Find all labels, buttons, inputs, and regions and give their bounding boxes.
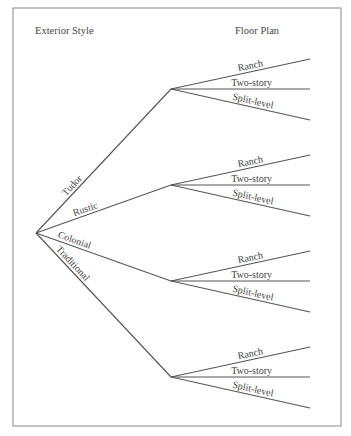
branch-line-rustic (36, 185, 171, 233)
leaf-label-two-story: Two-story (231, 365, 272, 376)
leaf-label-ranch: Ranch (237, 249, 264, 265)
header-exterior-style: Exterior Style (35, 25, 94, 36)
leaf-label-ranch: Ranch (237, 57, 264, 73)
leaf-label-two-story: Two-story (231, 77, 272, 88)
leaf-label-two-story: Two-story (231, 173, 272, 184)
header-floor-plan: Floor Plan (235, 25, 280, 36)
leaf-label-ranch: Ranch (237, 345, 264, 361)
leaf-label-ranch: Ranch (237, 153, 264, 169)
tree-diagram: Exterior Style Floor Plan TudorRanchTwo-… (0, 0, 351, 436)
branch-line-tudor (36, 89, 171, 233)
branch-line-traditional (36, 233, 171, 377)
leaf-label-two-story: Two-story (231, 269, 272, 280)
frame-border (13, 8, 341, 426)
branch-line-colonial (36, 233, 171, 281)
